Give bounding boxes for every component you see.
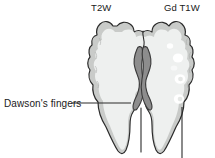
label-dawsons-fingers: Dawson's fingers (4, 99, 81, 109)
brain-diagram-svg (0, 0, 215, 158)
ring-lesion-mid (175, 74, 186, 84)
figure-canvas: T2W Gd T1W Dawson's fingers (0, 0, 215, 158)
solid-lesion-upper (173, 53, 183, 62)
small-lesion-top (167, 43, 173, 49)
ring-lesion-lower (174, 94, 184, 104)
label-gd-t1w: Gd T1W (164, 3, 200, 13)
label-t2w: T2W (91, 3, 111, 13)
faint-lesion (171, 65, 178, 70)
